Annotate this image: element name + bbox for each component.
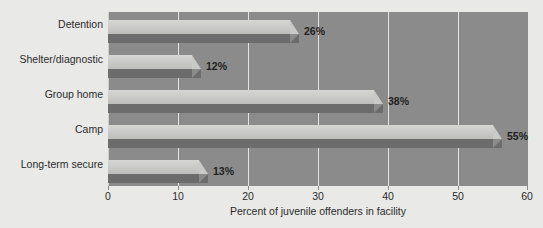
bar-cap-top <box>192 55 201 69</box>
bar-cap-front <box>290 34 299 43</box>
tick-label-50: 50 <box>445 190 471 202</box>
bar-top-face <box>108 160 199 174</box>
bar-cap-front <box>374 104 383 113</box>
gridline-50 <box>458 12 459 186</box>
bar-top-face <box>108 125 493 139</box>
tick-label-30: 30 <box>305 190 331 202</box>
bar-value-label: 26% <box>304 25 325 37</box>
bar-cap-top <box>493 125 502 139</box>
bar-value-label: 12% <box>206 60 227 72</box>
tick-label-0: 0 <box>95 190 121 202</box>
category-label-camp: Camp <box>0 124 103 135</box>
bar-cap-front <box>192 69 201 78</box>
tick-label-10: 10 <box>165 190 191 202</box>
bar-front-face <box>108 104 374 113</box>
tick-label-60: 60 <box>514 190 540 202</box>
bar-value-label: 55% <box>507 130 528 142</box>
bar-front-face <box>108 69 192 78</box>
bar-cap-front <box>493 139 502 148</box>
category-label-group-home: Group home <box>0 89 103 100</box>
category-label-long-term-secure: Long-term secure <box>0 159 103 170</box>
x-axis: 0 10 20 30 40 50 60 <box>108 186 528 204</box>
plot-area: 26% 12% 38% 55% 13% <box>108 12 528 186</box>
bar-top-face <box>108 90 374 104</box>
bar-chart-figure: Detention Shelter/diagnostic Group home … <box>0 0 543 228</box>
tick-label-40: 40 <box>375 190 401 202</box>
category-label-shelter-diagnostic: Shelter/diagnostic <box>0 54 103 65</box>
category-axis: Detention Shelter/diagnostic Group home … <box>0 12 103 186</box>
bar-cap-top <box>290 20 299 34</box>
bar-front-face <box>108 34 290 43</box>
bar-value-label: 13% <box>213 165 234 177</box>
tick-label-20: 20 <box>235 190 261 202</box>
bar-front-face <box>108 174 199 183</box>
bar-front-face <box>108 139 493 148</box>
bar-cap-top <box>374 90 383 104</box>
bar-top-face <box>108 20 290 34</box>
bar-cap-front <box>199 174 208 183</box>
x-axis-title: Percent of juvenile offenders in facilit… <box>108 205 528 217</box>
bar-value-label: 38% <box>388 95 409 107</box>
bar-top-face <box>108 55 192 69</box>
category-label-detention: Detention <box>0 19 103 30</box>
bar-cap-top <box>199 160 208 174</box>
